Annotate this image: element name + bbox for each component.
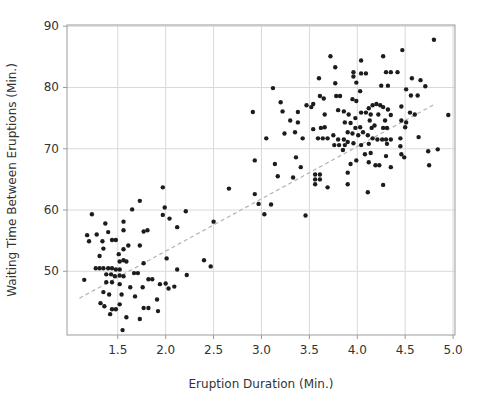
data-point <box>317 76 321 80</box>
data-point <box>386 107 390 111</box>
data-point <box>364 110 368 114</box>
data-point <box>361 130 365 134</box>
data-point <box>117 282 121 286</box>
data-point <box>325 185 329 189</box>
data-point <box>346 130 350 134</box>
data-point <box>113 274 117 278</box>
data-point <box>380 137 384 141</box>
data-point <box>253 192 257 196</box>
data-point <box>97 254 101 258</box>
data-point <box>321 136 325 140</box>
data-point <box>156 309 160 313</box>
data-point <box>141 306 145 310</box>
data-point <box>423 84 427 88</box>
data-point <box>367 142 371 146</box>
data-point <box>100 239 104 243</box>
scatter-plot: 1.52.02.53.03.54.04.55.05060708090 Erupt… <box>0 0 477 409</box>
axis-ticks <box>63 26 453 339</box>
data-point <box>313 182 317 186</box>
data-point <box>389 113 393 117</box>
data-point <box>353 126 357 130</box>
data-point <box>311 127 315 131</box>
data-point <box>318 94 322 98</box>
data-point <box>101 246 105 250</box>
data-point <box>175 225 179 229</box>
data-point <box>379 83 383 87</box>
data-point <box>167 216 171 220</box>
data-point <box>140 285 144 289</box>
data-point <box>399 118 403 122</box>
scatter-figure: 1.52.02.53.03.54.04.55.05060708090 Erupt… <box>0 0 477 409</box>
data-point <box>106 230 110 234</box>
data-point <box>377 163 381 167</box>
data-point <box>350 131 354 135</box>
data-point <box>408 110 412 114</box>
data-point <box>82 278 86 282</box>
data-point <box>389 70 393 74</box>
data-point <box>359 71 363 75</box>
data-point <box>415 93 419 97</box>
data-point <box>300 136 304 140</box>
data-point <box>358 89 362 93</box>
data-point <box>346 170 350 174</box>
data-point <box>399 104 403 108</box>
data-point <box>354 158 358 162</box>
data-point <box>381 126 385 130</box>
data-point <box>395 70 399 74</box>
data-point <box>276 174 280 178</box>
data-point <box>338 94 342 98</box>
data-point <box>364 71 368 75</box>
data-point <box>94 232 98 236</box>
data-point <box>353 116 357 120</box>
data-point <box>359 110 363 114</box>
data-point <box>432 38 436 42</box>
data-point <box>348 162 352 166</box>
data-point <box>358 125 362 129</box>
data-point <box>296 110 300 114</box>
data-point <box>328 54 332 58</box>
data-point <box>427 163 431 167</box>
data-point <box>323 112 327 116</box>
data-point <box>103 221 107 225</box>
data-point <box>291 175 295 179</box>
data-point <box>313 177 317 181</box>
data-point <box>104 280 108 284</box>
data-point <box>386 83 390 87</box>
data-point <box>138 317 142 321</box>
data-point <box>110 280 114 284</box>
data-point <box>119 292 123 296</box>
data-point <box>367 106 371 110</box>
data-point <box>332 143 336 147</box>
data-point <box>294 155 298 159</box>
y-tick-label: 80 <box>44 80 59 94</box>
data-point <box>163 281 167 285</box>
data-point <box>375 137 379 141</box>
data-point <box>381 105 385 109</box>
data-point <box>384 137 388 141</box>
y-tick-label: 50 <box>44 264 59 278</box>
data-point <box>359 58 363 62</box>
data-point <box>155 297 159 301</box>
data-point <box>346 112 350 116</box>
data-point <box>262 212 266 216</box>
data-point <box>136 271 140 275</box>
data-point <box>282 131 286 135</box>
data-point <box>403 125 407 129</box>
data-point <box>121 219 125 223</box>
data-point <box>336 137 340 141</box>
data-point <box>389 165 393 169</box>
trend-line <box>79 105 433 299</box>
data-points <box>82 38 450 333</box>
data-point <box>398 136 402 140</box>
data-point <box>323 125 327 129</box>
data-point <box>117 259 121 263</box>
data-point <box>351 70 355 74</box>
data-point <box>342 109 346 113</box>
data-point <box>227 186 231 190</box>
data-point <box>346 182 350 186</box>
data-point <box>413 112 417 116</box>
data-point <box>97 266 101 270</box>
data-point <box>107 292 111 296</box>
x-tick-label: 3.5 <box>300 343 319 357</box>
data-point <box>398 144 402 148</box>
